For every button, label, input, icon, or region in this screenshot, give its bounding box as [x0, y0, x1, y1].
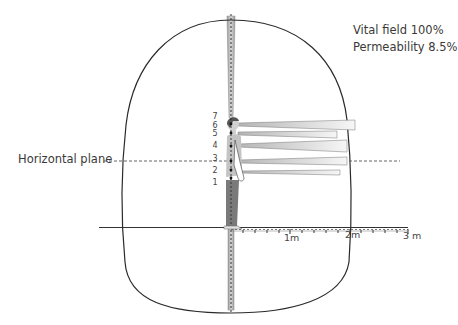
horizontal-plane-label: Horizontal plane	[18, 152, 112, 166]
bar-level-5	[238, 131, 337, 138]
level-label-7: 7	[211, 112, 219, 121]
level-label-1: 1	[211, 178, 219, 187]
level-label-2: 2	[211, 166, 219, 175]
info-panel: Vital field 100% Permeability 8.5%	[353, 22, 458, 56]
level-label-3: 3	[211, 154, 219, 163]
distance-ruler	[231, 229, 408, 234]
scale-label-3m: 3 m	[403, 230, 421, 241]
level-label-5: 5	[211, 129, 219, 138]
bar-level-2	[238, 170, 340, 175]
permeability-value: Permeability 8.5%	[353, 39, 458, 56]
bar-level-3	[238, 157, 347, 165]
field-bars	[238, 120, 355, 175]
bar-level-4	[238, 140, 347, 152]
level-label-6: 6	[211, 121, 219, 130]
vital-field-diagram: Vital field 100% Permeability 8.5% Horiz…	[0, 0, 458, 325]
scale-label-2m: 2m	[345, 229, 360, 240]
scale-label-1m: 1m	[284, 232, 299, 243]
bar-level-6	[238, 120, 355, 130]
vital-field-value: Vital field 100%	[353, 22, 458, 39]
level-label-4: 4	[211, 141, 219, 150]
